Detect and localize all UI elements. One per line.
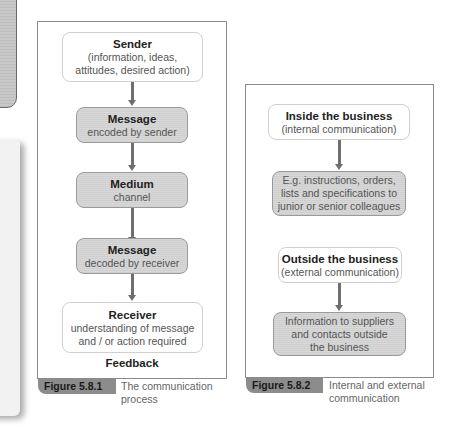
inside-business-node: Inside the business (internal communicat… xyxy=(268,104,410,140)
node-text: encoded by sender xyxy=(87,126,176,139)
node-text: (internal communication) xyxy=(282,123,397,136)
node-text: the business xyxy=(310,341,369,354)
node-text: attitudes, desired action) xyxy=(75,64,189,77)
figure-caption: The communication process xyxy=(121,380,213,406)
node-text: Information to suppliers xyxy=(285,315,394,328)
caption-line: The communication xyxy=(121,380,213,393)
node-text: (external communication) xyxy=(281,266,399,279)
figure-label: Figure 5.8.1 xyxy=(38,379,116,394)
node-text: understanding of message xyxy=(71,322,195,335)
node-text: lists and specifications to xyxy=(281,187,397,200)
figure-label: Figure 5.8.2 xyxy=(246,378,323,393)
node-text: decoded by receiver xyxy=(85,257,180,270)
down-arrow-icon xyxy=(338,283,341,306)
down-arrow-icon xyxy=(131,143,134,166)
node-text: (information, ideas, xyxy=(88,51,177,64)
adjacent-panel-grey xyxy=(0,0,17,108)
sender-node: Sender (information, ideas, attitudes, d… xyxy=(62,32,203,82)
node-title: Inside the business xyxy=(286,109,393,123)
medium-node: Medium channel xyxy=(76,172,188,208)
receiver-node: Receiver understanding of message and / … xyxy=(62,302,203,353)
node-text: channel xyxy=(114,191,151,204)
node-title: Message xyxy=(108,243,157,257)
message-decoded-node: Message decoded by receiver xyxy=(76,238,188,274)
node-text: and / or action required xyxy=(79,335,187,348)
internal-examples-node: E.g. instructions, orders, lists and spe… xyxy=(272,171,406,216)
node-title: Receiver xyxy=(109,308,157,322)
figure-caption: Internal and external communication xyxy=(329,379,425,405)
down-arrow-icon xyxy=(131,274,134,296)
caption-line: process xyxy=(121,393,213,406)
node-text: and contacts outside xyxy=(291,328,387,341)
adjacent-panel-shadowed xyxy=(0,140,20,416)
down-arrow-icon xyxy=(338,140,341,165)
caption-line: Internal and external xyxy=(329,379,425,392)
outside-business-node: Outside the business (external communica… xyxy=(278,247,402,283)
feedback-label: Feedback xyxy=(37,357,227,369)
external-examples-node: Information to suppliers and contacts ou… xyxy=(273,312,406,356)
node-text: junior or senior colleagues xyxy=(278,200,401,213)
node-text: E.g. instructions, orders, xyxy=(282,174,395,187)
down-arrow-icon xyxy=(131,208,134,238)
message-encoded-node: Message encoded by sender xyxy=(76,107,188,143)
node-title: Medium xyxy=(110,177,153,191)
node-title: Outside the business xyxy=(282,252,398,266)
node-title: Message xyxy=(108,112,157,126)
down-arrow-icon xyxy=(131,82,134,101)
caption-line: communication xyxy=(329,392,425,405)
node-title: Sender xyxy=(113,37,152,51)
